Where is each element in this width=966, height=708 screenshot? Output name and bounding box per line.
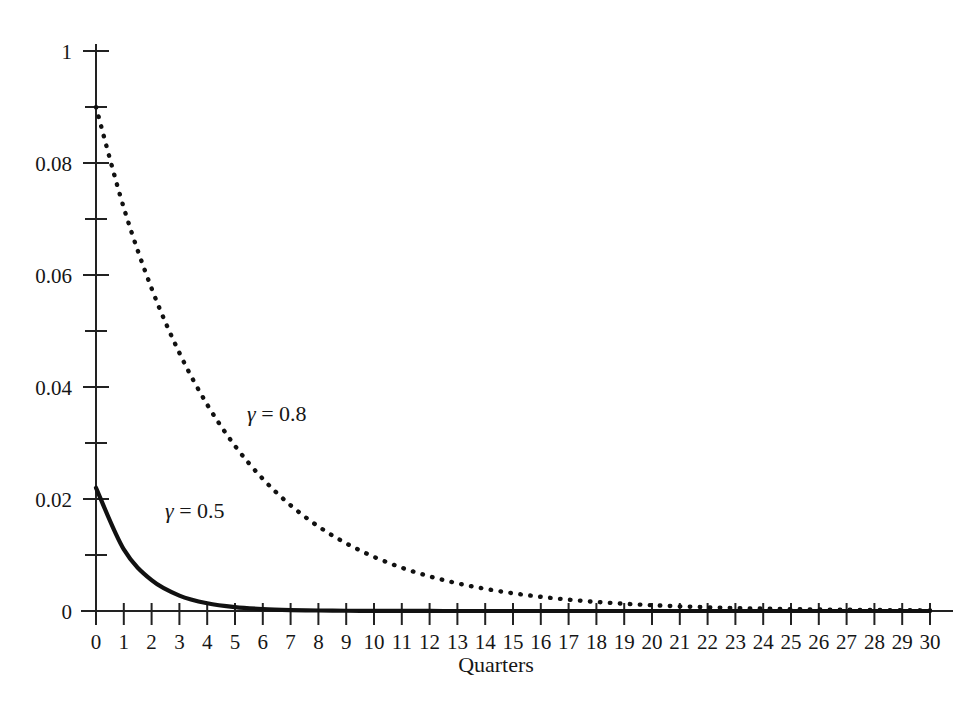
x-tick-label: 25 xyxy=(781,630,802,654)
x-axis-title: Quarters xyxy=(458,652,534,677)
x-tick-label: 7 xyxy=(285,630,296,654)
x-tick-label: 24 xyxy=(753,630,775,654)
decay-response-chart: 10.080.060.040.020 012345678910111213141… xyxy=(0,0,966,708)
x-tick-label: 13 xyxy=(447,630,468,654)
x-tick-label: 3 xyxy=(174,630,185,654)
chart-background xyxy=(0,0,966,708)
x-tick-label: 28 xyxy=(864,630,885,654)
x-tick-label: 29 xyxy=(892,630,913,654)
x-tick-label: 14 xyxy=(475,630,497,654)
x-tick-label: 5 xyxy=(230,630,241,654)
y-tick-label: 0.04 xyxy=(35,376,72,400)
x-tick-label: 19 xyxy=(614,630,635,654)
x-tick-label: 26 xyxy=(808,630,829,654)
x-tick-label: 2 xyxy=(146,630,157,654)
x-tick-label: 18 xyxy=(586,630,607,654)
x-tick-label: 12 xyxy=(419,630,440,654)
x-tick-label: 20 xyxy=(642,630,663,654)
x-tick-label: 11 xyxy=(392,630,412,654)
y-tick-label: 1 xyxy=(62,40,73,64)
x-tick-label: 10 xyxy=(364,630,385,654)
x-tick-label: 9 xyxy=(341,630,352,654)
y-tick-label: 0.02 xyxy=(35,488,72,512)
x-tick-label: 1 xyxy=(119,630,130,654)
x-tick-label: 0 xyxy=(91,630,102,654)
x-tick-label: 22 xyxy=(697,630,718,654)
x-tick-label: 27 xyxy=(836,630,857,654)
series-annotation-0: γ = 0.8 xyxy=(247,401,307,426)
x-tick-label: 8 xyxy=(313,630,324,654)
x-tick-label: 17 xyxy=(558,630,579,654)
x-tick-label: 16 xyxy=(530,630,551,654)
y-tick-label: 0.08 xyxy=(35,152,72,176)
y-tick-label: 0 xyxy=(62,600,73,624)
x-tick-label: 23 xyxy=(725,630,746,654)
x-tick-label: 30 xyxy=(920,630,941,654)
x-tick-label: 6 xyxy=(258,630,269,654)
series-annotation-1: γ = 0.5 xyxy=(165,498,225,523)
x-tick-label: 21 xyxy=(669,630,690,654)
x-tick-label: 4 xyxy=(202,630,213,654)
y-tick-label: 0.06 xyxy=(35,264,72,288)
figure-container: 10.080.060.040.020 012345678910111213141… xyxy=(0,0,966,708)
x-tick-label: 15 xyxy=(503,630,524,654)
